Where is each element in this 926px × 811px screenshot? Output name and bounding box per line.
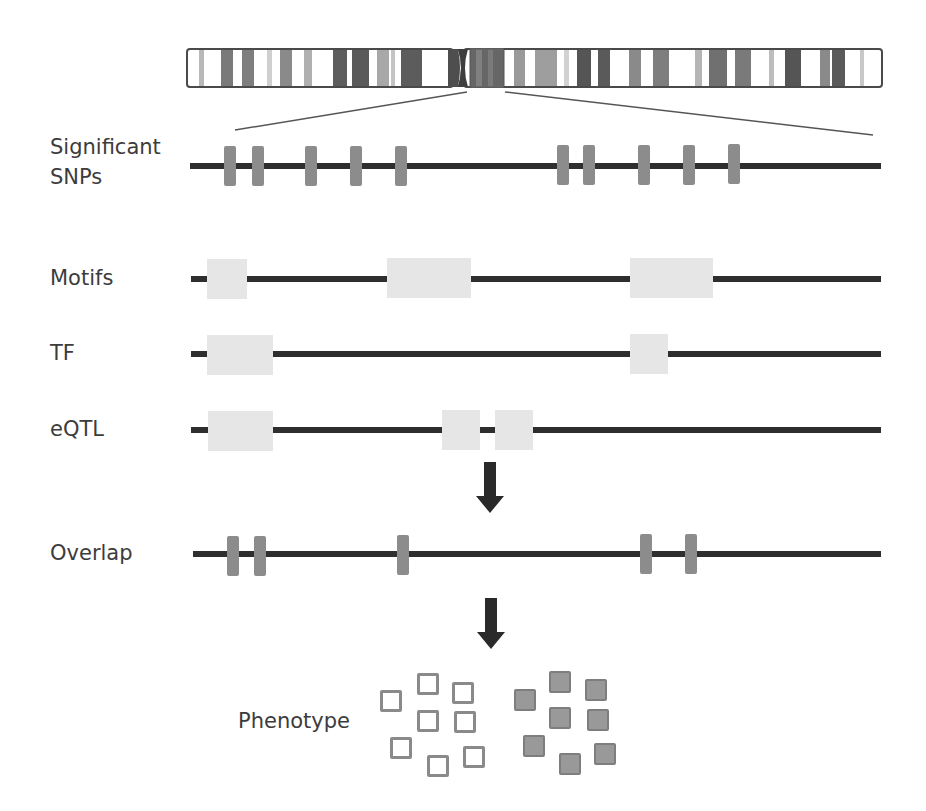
snp-marker bbox=[350, 146, 362, 186]
motif-region bbox=[630, 258, 713, 298]
track-label-overlap: Overlap bbox=[50, 538, 133, 568]
filled-square-icon bbox=[585, 679, 607, 701]
filled-square-icon bbox=[587, 709, 609, 731]
eqtl-region bbox=[442, 410, 480, 450]
tf-region bbox=[630, 334, 668, 374]
open-square-icon bbox=[452, 682, 474, 704]
filled-square-icon bbox=[559, 753, 581, 775]
filled-square-icon bbox=[549, 671, 571, 693]
filled-square-icon bbox=[514, 689, 536, 711]
phenotype-label: Phenotype bbox=[238, 706, 350, 736]
genome-line bbox=[193, 551, 881, 557]
genome-line bbox=[190, 163, 881, 169]
genome-line bbox=[191, 351, 881, 357]
track-label-tf: TF bbox=[50, 338, 75, 368]
down-arrow-icon bbox=[475, 462, 505, 514]
filled-square-icon bbox=[549, 707, 571, 729]
open-square-icon bbox=[417, 710, 439, 732]
snp-marker bbox=[583, 145, 595, 185]
snp-marker bbox=[557, 145, 569, 185]
filled-square-icon bbox=[523, 735, 545, 757]
genome-line bbox=[191, 276, 881, 282]
snp-marker bbox=[638, 145, 650, 185]
track-label-motifs: Motifs bbox=[50, 263, 113, 293]
eqtl-region bbox=[495, 410, 533, 450]
track-label-snps: Significant SNPs bbox=[50, 132, 161, 192]
overlap-snp-marker bbox=[254, 536, 266, 576]
open-square-icon bbox=[454, 711, 476, 733]
track-label-eqtl: eQTL bbox=[50, 414, 104, 444]
open-square-icon bbox=[463, 746, 485, 768]
down-arrow-icon bbox=[476, 598, 506, 650]
snp-marker bbox=[252, 146, 264, 186]
snp-marker bbox=[395, 146, 407, 186]
snp-marker bbox=[683, 145, 695, 185]
snp-marker bbox=[305, 146, 317, 186]
overlap-snp-marker bbox=[640, 534, 652, 574]
tf-region bbox=[207, 335, 273, 375]
open-square-icon bbox=[380, 690, 402, 712]
open-square-icon bbox=[390, 737, 412, 759]
filled-square-icon bbox=[594, 743, 616, 765]
motif-region bbox=[387, 258, 471, 298]
overlap-snp-marker bbox=[227, 536, 239, 576]
motif-region bbox=[207, 259, 247, 299]
eqtl-region bbox=[208, 411, 273, 451]
snp-marker bbox=[728, 144, 740, 184]
open-square-icon bbox=[427, 755, 449, 777]
overlap-snp-marker bbox=[397, 535, 409, 575]
snp-marker bbox=[224, 146, 236, 186]
genome-line bbox=[191, 427, 881, 433]
open-square-icon bbox=[417, 673, 439, 695]
overlap-snp-marker bbox=[685, 534, 697, 574]
